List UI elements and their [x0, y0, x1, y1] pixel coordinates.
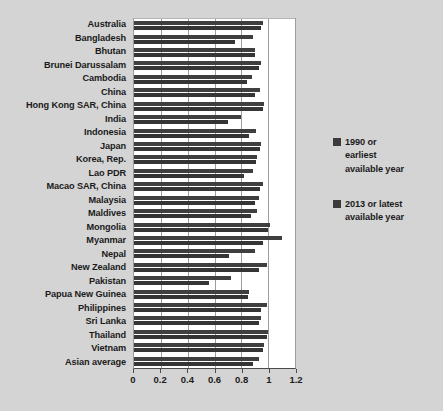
- bar-2013-latest: [134, 61, 261, 65]
- legend-label-line: earliest: [345, 149, 404, 162]
- bar-2013-latest: [134, 223, 270, 227]
- bar-1990-earliest: [134, 147, 260, 151]
- bar-group: [134, 193, 295, 206]
- axis-tick-label: 1.2: [289, 374, 302, 385]
- bar-1990-earliest: [134, 241, 263, 245]
- bar-1990-earliest: [134, 348, 263, 352]
- legend-label: 2013 or latestavailable year: [345, 198, 404, 225]
- bar-group: [134, 234, 295, 247]
- category-label: Lao PDR: [8, 167, 130, 181]
- axis-tick: [296, 369, 297, 373]
- bar-2013-latest: [134, 263, 267, 267]
- bar-group: [134, 261, 295, 274]
- gridline: [295, 19, 296, 368]
- bar-group: [134, 19, 295, 32]
- axis-tick: [187, 369, 188, 373]
- bar-2013-latest: [134, 209, 257, 213]
- category-label: Macao SAR, China: [8, 180, 130, 194]
- category-label: Papua New Guinea: [8, 288, 130, 302]
- axis-tick-label: 0.2: [154, 374, 167, 385]
- plot-area: [133, 18, 296, 369]
- legend-swatch-icon: [333, 200, 341, 208]
- bar-2013-latest: [134, 303, 267, 307]
- bar-1990-earliest: [134, 187, 260, 191]
- bar-1990-earliest: [134, 120, 228, 124]
- bar-group: [134, 140, 295, 153]
- bar-2013-latest: [134, 88, 260, 92]
- category-label: Philippines: [8, 302, 130, 316]
- bar-1990-earliest: [134, 160, 256, 164]
- bar-group: [134, 301, 295, 314]
- axis-tick-label: 1: [266, 374, 271, 385]
- legend-label-line: 1990 or: [345, 136, 404, 149]
- category-label: Cambodia: [8, 72, 130, 86]
- category-label: Brunei Darussalam: [8, 59, 130, 73]
- category-label: Hong Kong SAR, China: [8, 99, 130, 113]
- bar-1990-earliest: [134, 80, 247, 84]
- category-label: Pakistan: [8, 275, 130, 289]
- legend-entry[interactable]: 2013 or latestavailable year: [333, 198, 437, 225]
- legend-label-line: 2013 or latest: [345, 198, 404, 211]
- bar-group: [134, 113, 295, 126]
- bar-1990-earliest: [134, 308, 261, 312]
- bar-1990-earliest: [134, 53, 255, 57]
- bar-1990-earliest: [134, 26, 261, 30]
- bar-2013-latest: [134, 182, 263, 186]
- bar-group: [134, 126, 295, 139]
- bar-2013-latest: [134, 102, 264, 106]
- bar-2013-latest: [134, 330, 268, 334]
- category-label: Indonesia: [8, 126, 130, 140]
- axis-tick: [215, 369, 216, 373]
- bar-group: [134, 32, 295, 45]
- category-label: Maldives: [8, 207, 130, 221]
- axis-tick: [242, 369, 243, 373]
- bar-2013-latest: [134, 155, 257, 159]
- bar-group: [134, 46, 295, 59]
- category-label: Japan: [8, 140, 130, 154]
- category-label: Myanmar: [8, 234, 130, 248]
- bar-group: [134, 341, 295, 354]
- legend-entry[interactable]: 1990 orearliestavailable year: [333, 136, 437, 176]
- bar-2013-latest: [134, 142, 261, 146]
- bar-group: [134, 167, 295, 180]
- value-axis: 00.20.40.60.811.2: [133, 369, 296, 391]
- legend-swatch-icon: [333, 138, 341, 146]
- axis-tick-label: 0: [130, 374, 135, 385]
- category-label: Thailand: [8, 329, 130, 343]
- category-label: New Zealand: [8, 261, 130, 275]
- bar-1990-earliest: [134, 335, 267, 339]
- bar-2013-latest: [134, 316, 261, 320]
- bar-2013-latest: [134, 115, 241, 119]
- category-label: China: [8, 86, 130, 100]
- axis-tick: [269, 369, 270, 373]
- bar-2013-latest: [134, 129, 256, 133]
- bar-2013-latest: [134, 290, 249, 294]
- legend-label: 1990 orearliestavailable year: [345, 136, 404, 176]
- chart-legend: 1990 orearliestavailable year2013 or lat…: [333, 136, 437, 247]
- category-label: Nepal: [8, 248, 130, 262]
- bar-1990-earliest: [134, 134, 249, 138]
- bar-1990-earliest: [134, 362, 253, 366]
- bar-2013-latest: [134, 75, 252, 79]
- bar-1990-earliest: [134, 66, 259, 70]
- bar-1990-earliest: [134, 281, 209, 285]
- bar-group: [134, 328, 295, 341]
- bar-group: [134, 86, 295, 99]
- bar-2013-latest: [134, 357, 259, 361]
- legend-label-line: available year: [345, 211, 404, 224]
- category-label: Sri Lanka: [8, 315, 130, 329]
- bar-1990-earliest: [134, 214, 251, 218]
- bar-2013-latest: [134, 169, 253, 173]
- bar-group: [134, 314, 295, 327]
- axis-tick-label: 0.6: [208, 374, 221, 385]
- bar-group: [134, 220, 295, 233]
- bar-1990-earliest: [134, 254, 229, 258]
- bar-1990-earliest: [134, 268, 259, 272]
- bar-group: [134, 207, 295, 220]
- bar-group: [134, 355, 295, 368]
- category-axis: AustraliaBangladeshBhutanBrunei Darussal…: [8, 18, 130, 369]
- axis-tick-label: 0.8: [235, 374, 248, 385]
- axis-tick: [160, 369, 161, 373]
- bar-1990-earliest: [134, 40, 235, 44]
- bar-2013-latest: [134, 21, 263, 25]
